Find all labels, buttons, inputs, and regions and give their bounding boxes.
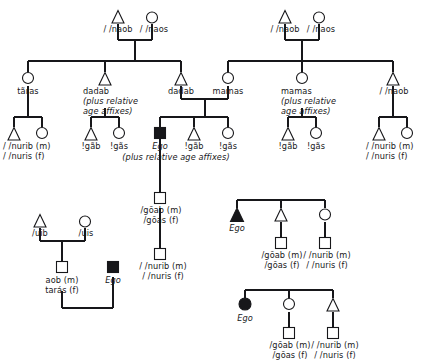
symbol-female-nuris-b (402, 128, 413, 139)
symbol-child-goab-center (155, 193, 166, 204)
label-gas-a: !gãs (110, 142, 128, 152)
symbol-male-gp-right-father (279, 11, 291, 24)
label-gas-c: !gãs (307, 142, 325, 152)
symbol-ego-bottom-left-filled-square (108, 262, 119, 273)
symbol-male-dadab-2 (175, 73, 187, 86)
label-gp-right-mother: / /naos (307, 25, 335, 35)
symbol-ego-mid-right-filled-triangle (231, 208, 244, 222)
symbol-female-sibling-r1 (320, 209, 331, 220)
symbol-male-nurib-a (8, 128, 20, 141)
symbol-female-gas-b (223, 128, 234, 139)
label-gab-c: !gãb (278, 142, 297, 152)
label-ego-center-note: (plus relative age affixes) (122, 153, 229, 163)
label-dadab-1-note-line2: age affixes) (83, 107, 132, 117)
symbol-child-goab-r2 (284, 328, 295, 339)
symbol-child-nurib-r2 (328, 328, 339, 339)
symbol-female-nuris-a (37, 128, 48, 139)
symbol-female-gp-left-mother (147, 12, 158, 23)
label-nuris-f-r1: / /nuris (f) (306, 261, 347, 271)
label-goas-f-r1: /gõas (f) (264, 261, 299, 271)
label-goas-f-center: /gõas (f) (143, 216, 178, 226)
label-gab-b: !gãb (184, 142, 203, 152)
label-gas-b: !gãs (219, 142, 237, 152)
symbol-female-gp-right-mother (314, 12, 325, 23)
symbol-male-uib (34, 215, 46, 228)
label-ego-bottom-left: Ego (105, 276, 121, 286)
label-nuris-f-center: / /nuris (f) (142, 272, 183, 282)
symbol-female-taras (23, 73, 34, 84)
label-nuris-f-a: / /nuris (f) (3, 152, 44, 162)
kinship-diagram-page: / /naob / /naos / /naob / /naos tãras da… (0, 0, 431, 362)
symbol-male-nurib-b (373, 128, 385, 141)
kinship-chart-svg (0, 0, 431, 362)
symbol-male-sibling-r2 (327, 299, 339, 312)
label-gab-a: !gãb (81, 142, 100, 152)
symbol-child-goab-r1 (276, 238, 287, 249)
symbol-male-dadab-1 (99, 73, 111, 86)
label-gp-left-father: / /naob (103, 25, 132, 35)
label-ego-bottom-right: Ego (237, 314, 253, 324)
label-uib: /uib (32, 229, 48, 239)
label-dadab-2: dadab (168, 87, 194, 97)
label-mamas-1: mamas (213, 87, 244, 97)
label-nuris-f-r2: / /nuris (f) (314, 351, 355, 361)
label-naob-uncle: / /naob (379, 87, 408, 97)
symbol-ego-bottom-right-filled-circle (239, 298, 251, 310)
symbol-female-gas-a (114, 128, 125, 139)
symbol-grandchild-nurib-center (155, 249, 166, 260)
symbol-female-gas-c (311, 128, 322, 139)
label-gp-right-father: / /naob (270, 25, 299, 35)
symbol-child-nurib-r1 (320, 238, 331, 249)
symbol-male-gp-left-father (112, 11, 124, 24)
label-nuris-f-b: / /nuris (f) (366, 152, 407, 162)
symbol-male-gab-c (282, 128, 294, 141)
symbol-female-sibling-r2 (284, 299, 295, 310)
symbol-female-mamas-2 (297, 73, 308, 84)
label-goas-f-r2: /gõas (f) (272, 351, 307, 361)
label-uis: /uis (79, 229, 94, 239)
symbol-male-gab-a (85, 128, 97, 141)
symbol-child-aob-taras (57, 262, 68, 273)
symbol-male-gab-b (188, 128, 200, 141)
symbol-female-uis (80, 216, 91, 227)
label-ego-center: Ego (152, 142, 168, 152)
label-taras-f: tarás (f) (45, 286, 79, 296)
label-gp-left-mother: / /naos (140, 25, 168, 35)
symbol-ego-center-filled-square (155, 128, 166, 139)
label-ego-mid-right: Ego (229, 224, 245, 234)
symbol-male-naob-uncle (387, 73, 399, 86)
label-mamas-2-note-line2: age affixes) (281, 107, 330, 117)
symbol-female-mamas-1 (223, 73, 234, 84)
symbol-male-sibling-r1 (275, 209, 287, 222)
label-taras: tãras (17, 87, 38, 97)
